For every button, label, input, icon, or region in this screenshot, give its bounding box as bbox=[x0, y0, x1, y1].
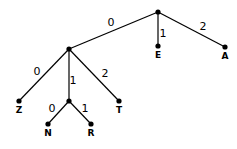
edge-n1-T bbox=[69, 49, 119, 101]
edge-label: 2 bbox=[200, 20, 207, 33]
node-R bbox=[88, 121, 93, 126]
node-root bbox=[155, 9, 160, 14]
edge-label: 1 bbox=[82, 102, 89, 115]
node-label: N bbox=[44, 128, 52, 138]
node-N bbox=[45, 121, 50, 126]
tree-diagram: 01201201 EAZTNR bbox=[0, 0, 237, 149]
edge-n1-Z bbox=[19, 49, 69, 101]
node-label: T bbox=[116, 105, 123, 115]
edge-label: 0 bbox=[108, 16, 115, 29]
node-label: Z bbox=[16, 105, 23, 115]
edge-label: 1 bbox=[160, 27, 167, 40]
node-n1 bbox=[66, 46, 71, 51]
edge-label: 0 bbox=[49, 102, 56, 115]
node-n2 bbox=[66, 98, 71, 103]
edge-label: 1 bbox=[70, 74, 77, 87]
node-A bbox=[222, 44, 227, 49]
edge-label: 0 bbox=[34, 65, 41, 78]
node-Z bbox=[16, 98, 21, 103]
node-label: R bbox=[88, 128, 95, 138]
node-label: A bbox=[222, 51, 229, 61]
edge-label: 2 bbox=[102, 67, 109, 80]
edge-root-A bbox=[158, 12, 225, 47]
node-T bbox=[116, 98, 121, 103]
node-label: E bbox=[155, 50, 161, 60]
node-E bbox=[155, 43, 160, 48]
